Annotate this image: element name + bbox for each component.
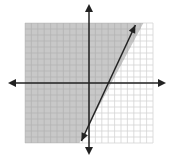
arrow-right-icon	[158, 79, 166, 87]
arrow-up-icon	[85, 4, 93, 12]
arrow-down-icon	[85, 147, 93, 155]
coordinate-plane	[0, 0, 171, 159]
arrow-left-icon	[8, 79, 16, 87]
